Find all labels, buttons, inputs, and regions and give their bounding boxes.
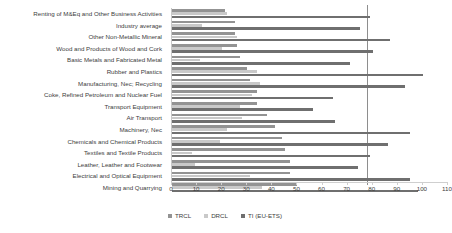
bar-drcl (172, 70, 257, 73)
category-label: Leather, Leather and Footwear (0, 159, 166, 171)
category-label: Air Transport (0, 112, 166, 124)
axis-tick-label: 80 (368, 185, 375, 192)
bar-ti-eu-ets (172, 16, 370, 19)
axis-tick-label: 40 (268, 185, 275, 192)
axis-tick-label: 60 (318, 185, 325, 192)
bar-trcl (172, 148, 285, 151)
bar-group (171, 66, 447, 78)
axis-tick-label: 0 (169, 185, 172, 192)
bar-trcl (172, 102, 257, 105)
bar-drcl (172, 152, 192, 155)
bar-trcl (172, 137, 282, 140)
bar-drcl (172, 24, 202, 27)
legend-label: TRCL (175, 212, 191, 219)
legend-item[interactable]: TI (EU-ETS) (241, 212, 282, 219)
category-label: Coke, Refined Petroleum and Nuclear Fuel (0, 89, 166, 101)
category-label: Mining and Quarrying (0, 182, 166, 194)
category-label: Other Non-Metallic Mineral (0, 31, 166, 43)
bar-group (171, 159, 447, 171)
bar-ti-eu-ets (172, 97, 333, 100)
bar-ti-eu-ets (172, 74, 423, 77)
bar-ti-eu-ets (172, 108, 313, 111)
bar-drcl (172, 175, 250, 178)
legend-label: DRCL (211, 212, 228, 219)
bar-ti-eu-ets (172, 50, 373, 53)
bar-ti-eu-ets (172, 166, 358, 169)
bar-drcl (172, 128, 227, 131)
bar-ti-eu-ets (172, 85, 405, 88)
bar-drcl (172, 105, 240, 108)
bar-ti-eu-ets (172, 120, 335, 123)
axis-tick-label: 50 (293, 185, 300, 192)
category-label: Electrical and Optical Equipment (0, 170, 166, 182)
legend-label: TI (EU-ETS) (248, 212, 282, 219)
bar-ti-eu-ets (172, 27, 360, 30)
bar-group (171, 89, 447, 101)
bar-ti-eu-ets (172, 62, 350, 65)
bar-trcl (172, 114, 267, 117)
axis-tick-label: 70 (343, 185, 350, 192)
bar-group (171, 78, 447, 90)
axis-tick-label: 110 (442, 185, 452, 192)
bar-trcl (172, 9, 225, 12)
category-label: Basic Metals and Fabricated Metal (0, 54, 166, 66)
bar-group (171, 124, 447, 136)
bar-ti-eu-ets (172, 155, 370, 158)
axis-tick-label: 20 (218, 185, 225, 192)
bar-trcl (172, 125, 275, 128)
bar-trcl (172, 172, 290, 175)
bar-drcl (172, 12, 227, 15)
bar-drcl (172, 163, 195, 166)
bar-drcl (172, 140, 220, 143)
bar-drcl (172, 59, 200, 62)
bar-trcl (172, 21, 235, 24)
axis-tick-label: 90 (393, 185, 400, 192)
bar-ti-eu-ets (172, 39, 390, 42)
axis-baseline (171, 182, 447, 183)
legend-swatch-icon (168, 214, 172, 218)
axis-tick-label: 10 (193, 185, 200, 192)
bar-group (171, 101, 447, 113)
bar-group (171, 170, 447, 182)
bar-trcl (172, 56, 240, 59)
bar-trcl (172, 160, 290, 163)
bar-group (171, 43, 447, 55)
bar-trcl (172, 32, 235, 35)
category-label: Transport Equipment (0, 101, 166, 113)
bar-drcl (172, 117, 242, 120)
bar-group (171, 147, 447, 159)
legend-swatch-icon (241, 214, 245, 218)
legend-item[interactable]: TRCL (168, 212, 191, 219)
bar-trcl (172, 44, 237, 47)
bar-group (171, 8, 447, 20)
category-label: Renting of M&Eq and Other Business Activ… (0, 8, 166, 20)
bar-ti-eu-ets (172, 143, 388, 146)
bar-drcl (172, 94, 252, 97)
bar-group (171, 136, 447, 148)
category-label: Textiles and Textile Products (0, 147, 166, 159)
bar-group (171, 31, 447, 43)
category-label: Wood and Products of Wood and Cork (0, 43, 166, 55)
bar-ti-eu-ets (172, 178, 410, 181)
bar-drcl (172, 36, 237, 39)
value-axis: 0102030405060708090100110 (171, 182, 447, 194)
bar-trcl (172, 90, 257, 93)
category-label: Manufacturing, Nec; Recycling (0, 78, 166, 90)
bar-trcl (172, 79, 250, 82)
category-label: Industry average (0, 20, 166, 32)
bar-ti-eu-ets (172, 132, 410, 135)
bar-group (171, 20, 447, 32)
bar-group (171, 112, 447, 124)
category-label: Rubber and Plastics (0, 66, 166, 78)
axis-tick-label: 30 (243, 185, 250, 192)
category-label: Machinery, Nec (0, 124, 166, 136)
bar-trcl (172, 67, 247, 70)
bar-drcl (172, 47, 222, 50)
plot-area (171, 8, 447, 182)
category-label: Chemicals and Chemical Products (0, 136, 166, 148)
chart-legend: TRCLDRCLTI (EU-ETS) (0, 212, 450, 219)
legend-item[interactable]: DRCL (204, 212, 228, 219)
bar-drcl (172, 82, 260, 85)
legend-swatch-icon (204, 214, 208, 218)
